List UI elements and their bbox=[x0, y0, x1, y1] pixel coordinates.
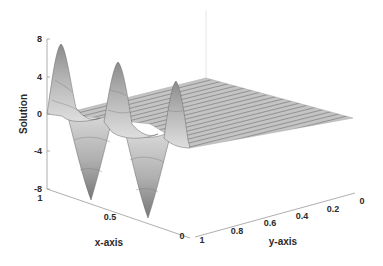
y-axis-line bbox=[195, 193, 355, 237]
x-axis-label: x-axis bbox=[95, 237, 124, 248]
x-tick-0.5: 0.5 bbox=[104, 212, 117, 222]
surface-plot: 8 4 0 -4 -8 Solution 1 0.5 0 x-axis 1 0.… bbox=[0, 0, 383, 266]
z-tick-neg4: -4 bbox=[34, 146, 42, 156]
x-axis-line bbox=[47, 189, 190, 238]
x-tick-1: 1 bbox=[37, 193, 42, 203]
z-ticks bbox=[47, 39, 50, 189]
trough-2 bbox=[124, 128, 172, 218]
y-axis-label: y-axis bbox=[269, 236, 298, 247]
x-tick-0: 0 bbox=[179, 231, 184, 241]
y-tick-1: 1 bbox=[199, 235, 204, 245]
z-tick-8: 8 bbox=[37, 34, 42, 44]
y-tick-0.8: 0.8 bbox=[231, 226, 244, 236]
z-tick-4: 4 bbox=[37, 72, 42, 82]
z-axis-label: Solution bbox=[18, 94, 29, 134]
y-tick-0.6: 0.6 bbox=[264, 218, 277, 228]
y-tick-0.4: 0.4 bbox=[296, 211, 309, 221]
z-tick-0: 0 bbox=[37, 109, 42, 119]
y-tick-0.2: 0.2 bbox=[327, 204, 340, 214]
y-tick-0: 0 bbox=[359, 196, 364, 206]
